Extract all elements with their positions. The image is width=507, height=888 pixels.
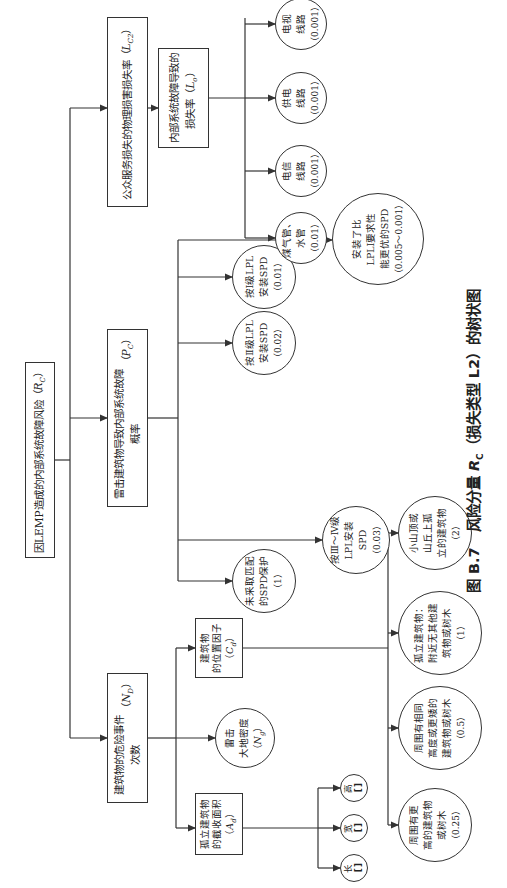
lf-line: 立的建筑物 xyxy=(435,508,449,558)
lf-line: 周围有更 xyxy=(407,805,421,845)
spd-better-than-lpl-1: 安装了比 LPLⅠ要求性 能更优的SPD （0.005～0.001） xyxy=(332,193,424,285)
node-p-c: 雷击建筑物导致内部系统故障概率 （PC） xyxy=(107,329,148,507)
lf-value: （0.5） xyxy=(455,712,469,744)
node-l-o-line1: 内部系统故障导致的 xyxy=(167,53,183,143)
lf-line: 高的建筑物 xyxy=(421,800,435,850)
lo-line: 线路 xyxy=(294,14,308,34)
spd-value: （0.005～0.001） xyxy=(393,200,407,279)
lf-line: 或树木 xyxy=(435,810,449,840)
dim-width-value: [ ] xyxy=(354,824,364,832)
lf-line: 高度或更矮的 xyxy=(426,698,440,758)
location-factor-0-25: 周围有更 高的建筑物 或树木 （0.25） xyxy=(398,788,472,862)
lf-line: 山丘上孤 xyxy=(421,513,435,553)
spd-lpl-3-4: 按Ⅲ～Ⅳ级 LPL安装SPD （0.03） xyxy=(322,506,390,574)
loss-telecom: 电信 线路 （0.001） xyxy=(275,145,327,197)
node-l-o-line2: 损失率（Lo） xyxy=(183,67,201,128)
node-n-d-symbol: （ND） xyxy=(119,678,136,713)
dim-height-value: [ ] xyxy=(354,784,364,792)
caption-text2: （损失类型 L2）的树状图 xyxy=(466,289,482,453)
lo-value: （0.01） xyxy=(309,219,323,257)
location-factor-0-5: 周围有相同 高度或更矮的 建筑物或树木 （0.5） xyxy=(398,686,482,770)
spd-line: 安装SPD xyxy=(257,323,271,364)
node-n-g: 雷击 大地密度 （Ng） xyxy=(215,708,275,768)
node-p-c-label: 雷击建筑物导致内部系统故障概率 xyxy=(112,366,142,502)
lf-line: 附近无其他建 xyxy=(426,603,440,663)
spd-line: 安装了比 xyxy=(350,219,364,259)
lf-line: 建筑物或树木 xyxy=(440,698,454,758)
root-label: 因LEMP造成的内部系统故障风险 xyxy=(32,400,47,552)
spd-value: （0.02） xyxy=(272,324,286,362)
spd-line: 安装SPD xyxy=(257,257,271,298)
location-factor-2: 小山顶或 山丘上孤 立的建筑物 （2） xyxy=(398,496,472,570)
lf-line: 孤立建筑物： xyxy=(412,603,426,663)
lf-line: 筑物或树木 xyxy=(440,608,454,658)
location-factor-1: 孤立建筑物： 附近无其他建 筑物或树木 （1） xyxy=(398,591,482,675)
node-l-c2-symbol: （LC2） xyxy=(119,24,136,61)
tree-diagram: 因LEMP造成的内部系统故障风险 （RC） 建筑物的危险事件次数 （ND） 雷击… xyxy=(0,0,507,888)
node-p-c-symbol: （PC） xyxy=(119,334,136,366)
node-c-d-symbol: （Cd） xyxy=(224,632,239,664)
dim-length-value: [ ] xyxy=(354,864,364,872)
spd-line: LPL安装SPD xyxy=(342,511,371,569)
spd-value: （1） xyxy=(272,569,286,593)
figure-caption: 图 B.7 风险分量 RC（损失类型 L2）的树状图 xyxy=(462,289,485,593)
lf-line: 小山顶或 xyxy=(407,513,421,553)
caption-symbol: R xyxy=(466,460,482,471)
spd-line: 未采取匹配 xyxy=(243,556,257,606)
lo-value: （0.001） xyxy=(309,76,323,120)
caption-prefix: 图 B.7 xyxy=(466,547,482,593)
loss-power: 供电 线路 （0.001） xyxy=(275,72,327,124)
lo-line: 供电 xyxy=(280,88,294,108)
node-n-d-label: 建筑物的危险事件次数 xyxy=(112,713,142,798)
spd-line: 按Ⅱ级LPL xyxy=(243,320,257,365)
node-l-c2-label: 公众服务损失的物理损害损失率 xyxy=(120,60,135,200)
node-n-g-line2: 大地密度 xyxy=(237,718,251,758)
spd-line: 的SPD保护 xyxy=(257,556,271,607)
spd-value: （0.03） xyxy=(371,521,385,559)
dim-length: 长 [ ] xyxy=(340,854,368,882)
lf-value: （1） xyxy=(455,621,469,645)
lo-value: （0.001） xyxy=(309,149,323,193)
node-a-d: 孤立建筑物 的截收面积 （Ad） xyxy=(195,793,243,855)
lo-line: 电视 xyxy=(280,14,294,34)
node-a-d-line1: 孤立建筑物 xyxy=(199,799,212,849)
caption-subscript: C xyxy=(475,453,485,460)
spd-line: 按Ⅰ级LPL xyxy=(243,256,257,299)
dim-width: 宽 [ ] xyxy=(340,814,368,842)
spd-line: 能更优的SPD xyxy=(378,209,392,270)
root-node: 因LEMP造成的内部系统故障风险 （RC） xyxy=(25,362,55,558)
loss-tv: 电视 线路 （0.001） xyxy=(275,0,327,50)
root-symbol: （RC） xyxy=(31,367,48,400)
node-n-g-line1: 雷击 xyxy=(223,728,237,748)
node-a-d-symbol: （Ad） xyxy=(224,808,239,839)
lo-line: 线路 xyxy=(294,88,308,108)
node-l-c2: 公众服务损失的物理损害损失率 （LC2） xyxy=(107,17,148,207)
node-c-d-line1: 建筑物 xyxy=(199,633,212,663)
lo-line: 水管 xyxy=(294,228,308,248)
spd-line: 按Ⅲ～Ⅳ级 xyxy=(328,516,342,565)
node-c-d: 建筑物 的位置因子 （Cd） xyxy=(195,618,243,678)
spd-value: （0.01） xyxy=(272,258,286,296)
node-n-d: 建筑物的危险事件次数 （ND） xyxy=(107,673,148,803)
caption-text: 风险分量 xyxy=(466,471,482,532)
node-n-g-symbol: （Ng） xyxy=(251,722,267,755)
spd-line: LPLⅠ要求性 xyxy=(364,213,378,266)
node-a-d-line2: 的截收面积 xyxy=(211,799,224,849)
spd-none: 未采取匹配 的SPD保护 （1） xyxy=(232,549,296,613)
dim-height: 高 [ ] xyxy=(340,774,368,802)
lo-line: 电信 xyxy=(280,161,294,181)
lo-line: 煤气管、 xyxy=(280,218,294,258)
lo-line: 线路 xyxy=(294,161,308,181)
node-l-o: 内部系统故障导致的 损失率（Lo） xyxy=(158,48,209,148)
loss-gas-water: 煤气管、 水管 （0.01） xyxy=(275,212,327,264)
lf-value: （0.25） xyxy=(450,806,464,844)
lo-value: （0.001） xyxy=(309,2,323,46)
spd-lpl-2: 按Ⅱ级LPL 安装SPD （0.02） xyxy=(232,311,296,375)
node-c-d-line2: 的位置因子 xyxy=(211,623,224,673)
lf-line: 周围有相同 xyxy=(412,703,426,753)
